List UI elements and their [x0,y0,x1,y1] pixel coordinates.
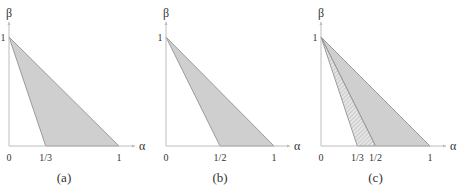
panel-c: βα101/31/21(c) [313,6,458,185]
shaded-region [321,37,430,146]
shaded-region [166,37,274,146]
panel-caption: (b) [212,170,227,185]
x-tick-label: 1 [117,152,122,163]
panel-a: βα101/31(a) [1,6,147,185]
panel-b: βα101/21(b) [158,6,302,185]
x-axis-label: α [450,139,457,153]
x-axis-label: α [139,139,146,153]
x-tick-label: 1 [428,152,433,163]
x-axis-arrow [132,145,135,148]
y-tick-label: 1 [158,32,163,43]
y-axis-arrow [320,22,323,25]
x-tick-label: 1/3 [39,152,52,163]
shaded-region [9,37,119,146]
y-tick-label: 1 [313,32,318,43]
y-tick-label: 1 [1,32,6,43]
panel-caption: (a) [57,170,71,185]
x-axis-label: α [294,139,301,153]
x-tick-label: 1/3 [351,152,364,163]
y-axis-arrow [165,22,168,25]
x-tick-label: 0 [319,152,324,163]
x-tick-label: 1/2 [369,152,382,163]
x-tick-label: 1/2 [214,152,227,163]
x-tick-label: 1 [272,152,277,163]
y-axis-label: β [6,6,12,20]
y-axis-label: β [163,6,169,20]
y-axis-label: β [318,6,324,20]
figure: βα101/31(a)βα101/21(b)βα101/31/21(c) [0,0,460,189]
x-axis-arrow [287,145,290,148]
x-tick-label: 0 [164,152,169,163]
x-axis-arrow [443,145,446,148]
panel-caption: (c) [368,170,382,185]
y-axis-arrow [8,22,11,25]
x-tick-label: 0 [7,152,12,163]
